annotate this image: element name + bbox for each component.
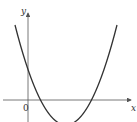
parabola-curve (15, 25, 117, 122)
origin-label: 0 (23, 104, 29, 113)
graph-canvas (0, 0, 137, 122)
x-axis-label: x (131, 104, 136, 113)
y-axis-label: y (21, 7, 26, 16)
